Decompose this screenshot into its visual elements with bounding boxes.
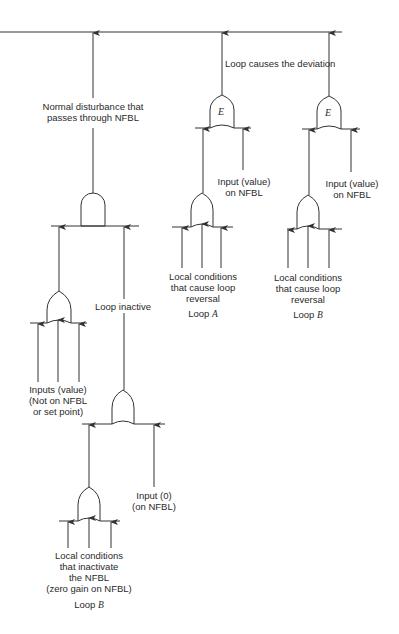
or-gate-loop-b [297, 195, 319, 229]
label-line: (zero gain on NFBL) [40, 583, 138, 594]
label-line: that cause loop [270, 283, 346, 294]
label-line: that inactivate [40, 561, 138, 572]
label-line: (Not on NFBL [22, 395, 94, 406]
e-gate-b-letter: E [325, 107, 331, 118]
loop-causes-deviation-label: Loop causes the deviation [225, 58, 335, 69]
or-gate-inputs [47, 291, 71, 323]
label-line: the NFBL [40, 572, 138, 583]
input-value-label-a: Input (value) on NFBL [214, 176, 274, 198]
label-line: Input (0) [128, 490, 180, 501]
label-line: Input (value) [214, 176, 274, 187]
label-line: reversal [270, 294, 346, 305]
or-gate-local-inactivate [78, 487, 100, 521]
loop-word: Loop [188, 308, 209, 319]
loop-letter: A [212, 309, 218, 319]
loop-b2-label: Loop B [40, 599, 138, 611]
label-line: or set point) [22, 406, 94, 417]
or-gate-loop-a [191, 193, 213, 227]
input-value-label-b: Input (value) on NFBL [322, 178, 382, 200]
local-inactivate-label: Local conditions that inactivate the NFB… [40, 550, 138, 611]
loop-word: Loop [293, 309, 314, 320]
label-line: on NFBL [322, 189, 382, 200]
label-line: Local conditions [40, 550, 138, 561]
inputs-value-label: Inputs (value) (Not on NFBL or set point… [22, 384, 94, 417]
label-line: that cause loop [165, 282, 241, 293]
local-conditions-label-b: Local conditions that cause loop reversa… [270, 272, 346, 321]
input-zero-label: Input (0) (on NFBL) [128, 490, 180, 512]
loop-word: Loop [74, 599, 95, 610]
label-line: Inputs (value) [22, 384, 94, 395]
label-line: Input (value) [322, 178, 382, 189]
label-line: passes through NFBL [38, 112, 148, 123]
label-line: (on NFBL) [128, 501, 180, 512]
and-gate [81, 193, 105, 226]
loop-letter: B [98, 600, 104, 610]
e-gate-a-letter: E [218, 106, 224, 117]
label-line: Normal disturbance that [38, 101, 148, 112]
loop-letter: B [317, 310, 323, 320]
label-line: on NFBL [214, 187, 274, 198]
loop-inactive-label: Loop inactive [95, 301, 151, 312]
loop-a-label: Loop A [165, 308, 241, 320]
normal-disturbance-label: Normal disturbance that passes through N… [38, 101, 148, 123]
local-conditions-label-a: Local conditions that cause loop reversa… [165, 271, 241, 320]
label-line: Local conditions [165, 271, 241, 282]
loop-b-label: Loop B [270, 309, 346, 321]
or-gate-inactive [112, 390, 134, 424]
label-line: Local conditions [270, 272, 346, 283]
label-line: reversal [165, 293, 241, 304]
